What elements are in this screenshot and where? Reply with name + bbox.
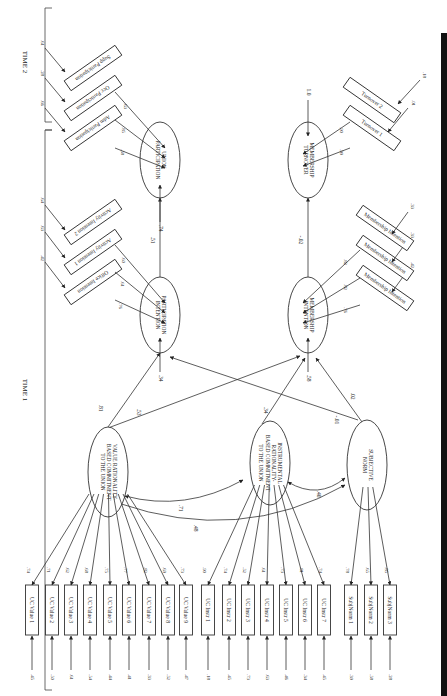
disturbance-memint-value: .58	[306, 375, 312, 382]
error-instr-5-value: .46	[284, 674, 289, 681]
loading-memturn-2-value: .90	[339, 127, 344, 134]
error-arrow-unionpart-2	[45, 78, 65, 102]
indicator-label: UC Value 4	[87, 597, 93, 623]
error-value-8-value: .52	[166, 674, 171, 681]
loading-memturn-1-value: .99	[339, 149, 344, 156]
loading-subj-2-value: .65	[365, 567, 370, 574]
indicator-instr-5: UC Instr 5	[280, 585, 293, 635]
corr-value-instr-coef: .71	[178, 505, 184, 512]
path-subj-memint	[316, 358, 362, 422]
corr-value-instr	[125, 480, 243, 501]
scan-edge-band	[441, 33, 447, 696]
error-subj-2-value: .58	[369, 674, 374, 681]
latent-memint-label: MEMBERSHIP	[309, 297, 315, 332]
error-partint-1-value: .42	[40, 255, 45, 262]
path-value-partint	[108, 353, 160, 427]
indicator-value-1: UC Value 1	[26, 585, 39, 635]
latent-unionpart-label: PARTICIPATION	[155, 141, 161, 180]
indicator-label: SubjNorm 1	[348, 596, 354, 624]
error-value-3-value: .61	[69, 674, 74, 681]
latent-value-label: TO THE UNION	[100, 453, 106, 491]
indicator-label: UC Value 1	[29, 597, 35, 623]
indicator-label: UC Value 7	[146, 597, 152, 623]
indicator-label: UC Value 9	[183, 597, 189, 623]
error-memint-3-value: .33	[410, 203, 415, 210]
latent-value-label: VALUE RATIONALITY-	[112, 444, 118, 500]
indicator-instr-1: UC Instr 1	[202, 585, 215, 635]
error-arrow-partint-3	[45, 205, 65, 230]
path-subj-memint-coef: .02	[350, 393, 356, 400]
path-instr-memint-coef: .34	[263, 407, 269, 414]
error-unionpart-1-value: .66	[40, 100, 45, 107]
error-memturn-1-value: .01	[411, 100, 416, 107]
error-value-6-value: .41	[127, 674, 132, 681]
indicator-label: UC Instr 6	[302, 598, 308, 622]
indicator-instr-4: UC Instr 4	[261, 585, 274, 635]
loading-unionpart-2-value: .85	[121, 127, 126, 134]
loading-memint-1-value: .76	[343, 307, 348, 314]
loading-value-3-value: .62	[65, 567, 70, 574]
latent-instr-label: INSTRUMENTAL	[277, 442, 283, 484]
loading-subj-1-value: .78	[345, 567, 350, 574]
loading-unionpart-1-value: .58	[120, 149, 125, 156]
loading-memint-3-value: .82	[343, 259, 348, 266]
error-arrow-unionpart-1	[45, 108, 65, 132]
path-diagram: TIME 1TIME 2.81.51-.02.53.34.02-.01.71.4…	[0, 0, 447, 696]
indicator-label: UC Value 8	[165, 597, 171, 623]
path-partint-unionpart-coef: .51	[150, 237, 156, 244]
indicator-label: UC Instr 7	[321, 598, 327, 622]
latent-instr-label: BASED COMMITMENT	[265, 435, 271, 492]
loading-value-6-value: .77	[123, 567, 128, 574]
loading-instr-3-value: .52	[242, 567, 247, 574]
indicator-label: SubjNorm 2	[368, 596, 374, 624]
error-arrow-partint-2	[45, 232, 65, 258]
indicator-label: UC Value 5	[107, 597, 113, 623]
time2-label: TIME 2	[21, 51, 29, 74]
latent-subj-label: NORM	[362, 457, 368, 473]
error-instr-6-value: .34	[303, 674, 308, 681]
indicator-value-7: UC Value 7	[143, 585, 156, 635]
error-value-7-value: .33	[147, 674, 152, 681]
indicator-subj-3: SubjNorm 3	[384, 585, 397, 635]
time1-label: TIME 1	[21, 379, 29, 402]
indicator-label: UC Instr 5	[283, 598, 289, 622]
path-subj-partint-coef: -.01	[334, 416, 340, 425]
loading-partint-1-value: .76	[118, 303, 123, 310]
loading-value-1	[32, 494, 89, 585]
indicator-value-6: UC Value 6	[123, 585, 136, 635]
latent-subj-label: SUBJECTIVE	[368, 449, 374, 481]
indicator-value-8: UC Value 8	[162, 585, 175, 635]
indicator-value-9: UC Value 9	[180, 585, 193, 635]
corr-instr-subj	[288, 478, 345, 490]
error-memturn-2-value: .18	[422, 72, 427, 79]
indicator-label: UC Instr 1	[205, 598, 211, 622]
indicator-label: Occ Participation	[75, 85, 111, 112]
loading-value-9-value: .73	[180, 567, 185, 574]
error-subj-1-value: .39	[349, 674, 354, 681]
path-value-partint-coef: .81	[98, 405, 104, 412]
error-instr-3-value: .73	[246, 674, 251, 681]
latent-unionpart-label: UNION	[161, 151, 167, 168]
error-instr-4-value: .63	[265, 674, 270, 681]
indicator-label: SubjNorm 3	[387, 596, 393, 624]
error-value-1-value: .45	[30, 674, 35, 681]
indicator-label: UC Instr 2	[226, 598, 232, 622]
error-unionpart-2-value: .28	[40, 70, 45, 77]
error-instr-1-value: .18	[206, 674, 211, 681]
latent-memint-label: INTENTION	[303, 300, 309, 329]
indicator-instr-6: UC Instr 6	[299, 585, 312, 635]
loading-value-2-value: .71	[46, 567, 51, 574]
error-memint-1-value: .42	[410, 262, 415, 269]
loading-value-9	[128, 494, 187, 585]
disturbance-memturn-value: 1.0	[306, 89, 312, 96]
error-value-9-value: .47	[184, 674, 189, 681]
loading-memint-2-value: .82	[343, 284, 348, 291]
indicator-label: UC Value 2	[49, 597, 55, 623]
loading-instr-1-value: .90	[202, 567, 207, 574]
latent-memturn-label: TURNOVER	[303, 145, 309, 175]
indicator-label: UC Value 6	[126, 597, 132, 623]
indicator-label: Activity Intention 1	[73, 237, 113, 267]
indicator-instr-7: UC Instr 7	[318, 585, 331, 635]
error-instr-2-value: .45	[227, 674, 232, 681]
loading-instr-6-value: .81	[299, 567, 304, 574]
